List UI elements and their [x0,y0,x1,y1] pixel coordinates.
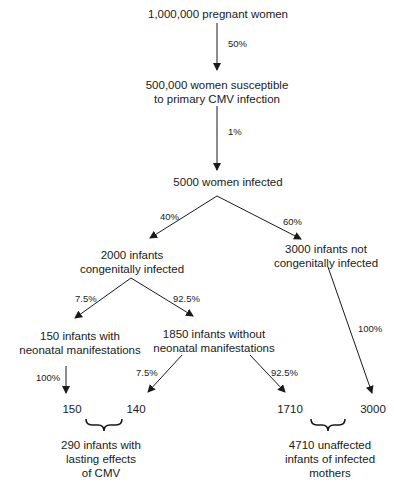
edge-label-7-5-b: 7.5% [136,367,158,378]
outcome-1710: 1710 [277,402,303,416]
node-with-neonatal-manifestations: 150 infants with neonatal manifestations [19,329,140,357]
node-unaffected-infants: 4710 unaffected infants of infected moth… [285,438,375,480]
edge-label-50: 50% [228,38,247,49]
brace-lasting [86,419,122,431]
brace-unaffected [311,419,345,431]
node-lasting-effects: 290 infants with lasting effects of CMV [61,438,141,480]
edge-label-40: 40% [160,211,179,222]
outcome-140: 140 [126,402,145,416]
edge-label-100-left: 100% [36,372,60,383]
edge-label-60: 60% [283,216,302,227]
node-congenitally-infected: 2000 infants congenitally infected [80,248,184,276]
node-women-infected: 5000 women infected [173,175,282,189]
edge-label-7-5-a: 7.5% [75,293,97,304]
outcome-3000: 3000 [360,402,386,416]
edge-label-100-right: 100% [358,323,382,334]
edge-label-1: 1% [228,126,242,137]
outcome-150: 150 [62,402,81,416]
edge-label-92-5-a: 92.5% [173,293,200,304]
node-without-neonatal-manifestations: 1850 infants without neonatal manifestat… [153,327,274,355]
node-pregnant-women: 1,000,000 pregnant women [148,7,288,21]
node-not-congenitally-infected: 3000 infants not congenitally infected [274,242,378,270]
edge-label-92-5-b: 92.5% [271,367,298,378]
node-susceptible-women: 500,000 women susceptible to primary CMV… [146,78,289,106]
